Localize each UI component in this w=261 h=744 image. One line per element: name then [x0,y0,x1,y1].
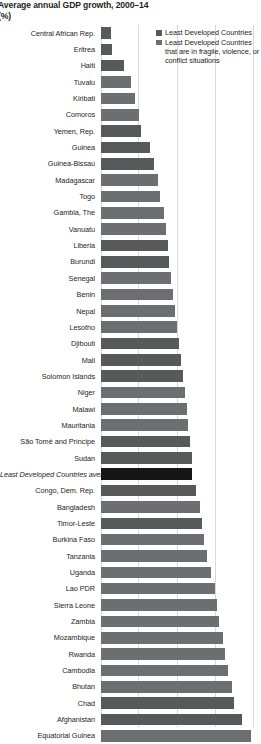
bar-congo-dem-rep [101,485,196,497]
bar-track [101,401,261,417]
bar-eritrea [101,44,112,56]
chart-row: Burkina Faso [0,532,261,548]
bar-track [101,613,261,629]
chart-row: Congo, Dem. Rep. [0,483,261,499]
chart-title-block: Average annual GDP growth, 2000–14 (%) [0,0,261,22]
category-label: Nepal [0,307,98,316]
category-label: Vanuatu [0,225,98,234]
chart-row: Mauritania [0,417,261,433]
chart-legend: Least Developed Countries Least Develope… [156,28,261,66]
category-label: Malawi [0,405,98,414]
chart-row: Mali [0,352,261,368]
category-label: Mauritania [0,421,98,430]
bar-track [101,532,261,548]
chart-row: Benin [0,287,261,303]
bar-bangladesh [101,501,200,513]
bar-uganda [101,567,211,579]
category-label: Haiti [0,61,98,70]
legend-label-fragile: Least Developed Countries that are in fr… [165,38,261,66]
bar-track [101,107,261,123]
chart-row: Djibouti [0,336,261,352]
bar-djibouti [101,338,179,350]
category-label: Sierra Leone [0,601,98,610]
category-label: Rwanda [0,650,98,659]
bar-central-african-rep [101,27,111,39]
bar-track [101,466,261,482]
chart-plot-area: Central African Rep.EritreaHaitiTuvaluKi… [0,25,261,727]
chart-row: Least Developed Countries average [0,466,261,482]
category-label: Lesotho [0,323,98,332]
chart-row: Cambodia [0,662,261,678]
bar-track [101,646,261,662]
bar-lesotho [101,321,177,333]
chart-units-label: (%) [0,11,261,22]
bar-track [101,156,261,172]
category-label: Cambodia [0,666,98,675]
bar-tuvalu [101,76,131,88]
chart-row: Burundi [0,254,261,270]
legend-label-ldc: Least Developed Countries [165,28,252,37]
bar-niger [101,387,185,399]
category-label: Gambia, The [0,208,98,217]
bar-guinea [101,142,150,154]
category-label: Tuvalu [0,78,98,87]
bar-madagascar [101,174,158,186]
bar-chad [101,697,234,709]
bar-track [101,711,261,727]
category-label: Senegal [0,274,98,283]
bar-track [101,385,261,401]
bar-track [101,319,261,335]
bar-track [101,728,261,744]
chart-row: Yemen, Rep. [0,123,261,139]
bar-yemen-rep [101,125,141,137]
category-label: Bangladesh [0,503,98,512]
category-label: Yemen, Rep. [0,127,98,136]
bar-equatorial-guinea [101,730,251,742]
bar-sudan [101,452,192,464]
bar-least-developed-countries-average [101,468,192,480]
category-label: Guinea-Bissau [0,159,98,168]
bar-track [101,90,261,106]
bar-track [101,352,261,368]
bar-track [101,597,261,613]
chart-bar-rows: Central African Rep.EritreaHaitiTuvaluKi… [0,25,261,744]
bar-kiribati [101,93,135,105]
category-label: Mozambique [0,633,98,642]
bar-track [101,483,261,499]
bar-s-o-tom-and-pr-ncipe [101,436,190,448]
chart-row: Guinea-Bissau [0,156,261,172]
chart-row: Tanzania [0,548,261,564]
bar-track [101,188,261,204]
bar-track [101,368,261,384]
category-label: Tanzania [0,552,98,561]
chart-row: Zambia [0,613,261,629]
bar-haiti [101,60,124,72]
bar-senegal [101,272,171,284]
bar-track [101,270,261,286]
bar-track [101,630,261,646]
category-label: Benin [0,290,98,299]
legend-swatch-icon [156,30,162,36]
page-title: Average annual GDP growth, 2000–14 [0,0,261,11]
category-label: Sudan [0,454,98,463]
bar-liberia [101,240,168,252]
bar-togo [101,191,160,203]
bar-track [101,237,261,253]
bar-burkina-faso [101,534,204,546]
chart-row: Madagascar [0,172,261,188]
bar-burundi [101,256,169,268]
bar-track [101,499,261,515]
category-label: Niger [0,388,98,397]
chart-row: Sierra Leone [0,597,261,613]
bar-vanuatu [101,223,166,235]
chart-row: Malawi [0,401,261,417]
bar-benin [101,289,173,301]
chart-row: Sudan [0,450,261,466]
category-label: Togo [0,192,98,201]
bar-afghanistan [101,714,242,726]
category-label: Lao PDR [0,584,98,593]
bar-mali [101,354,181,366]
category-label: Congo, Dem. Rep. [0,486,98,495]
bar-track [101,450,261,466]
bar-track [101,303,261,319]
